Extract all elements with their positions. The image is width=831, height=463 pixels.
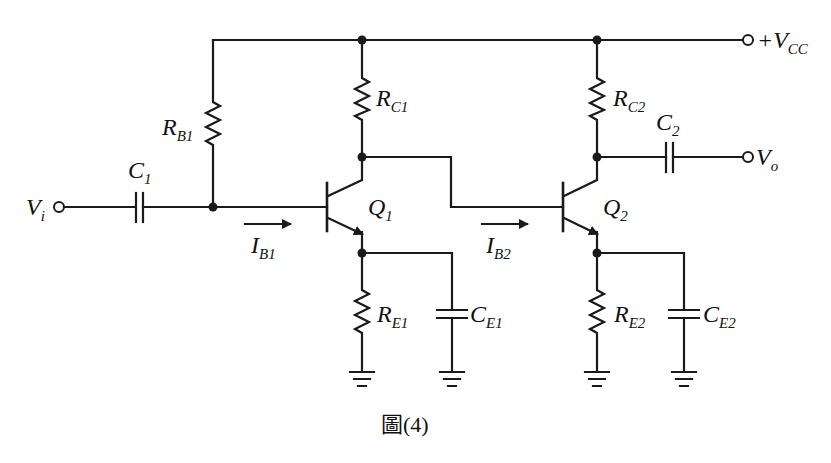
rb1-label: RB1 [161,114,193,144]
re1-label: RE1 [376,301,408,331]
ground-icon [585,372,609,386]
ground-icon [350,372,374,386]
ce1-label: CE1 [470,301,503,331]
input-branch [54,193,327,222]
c2-label: C2 [656,109,680,139]
transistor-q2 [563,157,597,253]
ce2-label: CE2 [703,301,736,331]
transistor-q1 [327,157,362,253]
emitter-network-1 [350,249,467,387]
vi-label: Vi [26,194,45,224]
ground-icon [672,372,696,386]
ib1-label: IB1 [250,232,276,262]
vcc-terminal [743,35,753,45]
output-branch [597,143,753,172]
ib2-label: IB2 [485,232,511,262]
rc2-label: RC2 [612,85,646,115]
resistor-rc2 [590,40,604,162]
c1-label: C1 [128,157,152,187]
vo-terminal [743,152,753,162]
vcc-label: +VCC [757,27,809,57]
vi-terminal [54,202,64,212]
q2-label: Q2 [603,194,628,224]
rc1-label: RC1 [375,85,408,115]
vcc-rail [213,35,753,45]
ground-icon [440,372,464,386]
resistor-rb1 [206,40,220,207]
re2-label: RE2 [613,301,646,331]
vo-label: Vo [756,144,779,174]
figure-caption: 圖(4) [381,412,429,437]
node-dot [209,203,218,212]
q1-label: Q1 [368,194,393,224]
interstage-wire [362,157,563,207]
circuit-diagram: +VCC RB1 Vi C1 RC1 Q1 IB1 RE1 [0,0,831,463]
resistor-rc1 [355,40,369,162]
